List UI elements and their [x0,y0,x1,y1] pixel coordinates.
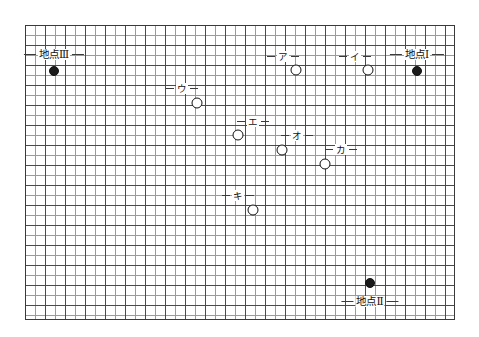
leader-line-right [363,56,371,57]
label-text-point-ka: カ [335,144,347,155]
map-label-point-u: ウ [166,81,198,95]
map-marker-point-e [233,130,244,141]
leader-line-left [166,88,174,89]
map-marker-point-i [363,65,374,76]
leader-line-right [72,54,84,55]
leader-line-right [387,301,399,302]
leader-line-left [325,149,333,150]
map-marker-point-o [277,145,288,156]
leader-line-right [349,149,357,150]
label-text-site-2: 地点Ⅱ [355,296,384,307]
map-label-point-e: エ [237,114,269,128]
label-text-point-o: オ [291,130,303,141]
map-marker-site-3 [49,66,59,76]
map-label-point-i: イ [339,49,371,63]
map-label-point-ka: カ [325,142,357,156]
leader-line-right [305,135,313,136]
grid-map-figure: アイウエオカキ地点Ⅰ地点Ⅱ地点Ⅲ [0,0,479,337]
label-text-point-u: ウ [176,83,188,94]
map-marker-point-a [291,65,302,76]
map-marker-point-ka [320,159,331,170]
leader-line-left [237,121,245,122]
leader-line-right [246,195,254,196]
map-label-site-1: 地点Ⅰ [390,47,444,61]
leader-line-left [339,56,347,57]
map-marker-site-2 [365,278,375,288]
map-marker-point-ki [248,205,259,216]
leader-line-left [222,195,230,196]
label-text-point-e: エ [247,116,259,127]
label-text-site-3: 地点Ⅲ [38,49,70,60]
label-text-point-a: ア [277,51,289,62]
leader-line-left [24,54,36,55]
map-label-site-2: 地点Ⅱ [341,294,398,308]
label-text-site-1: 地点Ⅰ [404,49,430,60]
leader-line-right [432,54,444,55]
map-marker-point-u [192,98,203,109]
leader-line-left [390,54,402,55]
label-text-point-i: イ [349,51,361,62]
leader-line-left [341,301,353,302]
map-label-point-a: ア [267,49,299,63]
map-marker-site-1 [412,66,422,76]
leader-line-right [190,88,198,89]
leader-line-left [267,56,275,57]
leader-line-left [281,135,289,136]
grid-background [25,25,455,320]
map-label-site-3: 地点Ⅲ [24,47,84,61]
map-label-point-ki: キ [222,188,254,202]
leader-line-right [291,56,299,57]
map-label-point-o: オ [281,128,313,142]
label-text-point-ki: キ [232,190,244,201]
leader-line-right [261,121,269,122]
